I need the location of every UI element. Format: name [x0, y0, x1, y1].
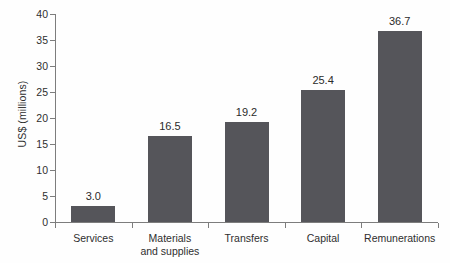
y-axis-tick-label: 20 [8, 113, 48, 124]
y-axis-tick-label: 25 [8, 87, 48, 98]
y-axis-tick [50, 144, 55, 145]
bar-value-label: 19.2 [217, 107, 277, 118]
bar-value-label: 3.0 [63, 191, 123, 202]
x-axis-line [55, 222, 438, 223]
y-axis-tick-label: 10 [8, 165, 48, 176]
y-axis-tick [50, 118, 55, 119]
x-axis-tick [208, 223, 209, 228]
x-axis-tick [55, 223, 56, 228]
x-axis-tick [132, 223, 133, 228]
y-axis-tick-label: 0 [8, 217, 48, 228]
y-axis-tick [50, 66, 55, 67]
y-axis-tick-label: 5 [8, 191, 48, 202]
x-axis-category-label: Remunerations [355, 232, 445, 245]
y-axis-tick-label: 40 [8, 9, 48, 20]
y-axis-tick-label: 35 [8, 35, 48, 46]
bar-value-label: 25.4 [293, 75, 353, 86]
bar [71, 206, 115, 222]
bar [378, 31, 422, 222]
y-axis-tick [50, 14, 55, 15]
y-axis-tick [50, 40, 55, 41]
x-axis-tick [438, 223, 439, 228]
y-axis-tick [50, 196, 55, 197]
y-axis-tick-label: 30 [8, 61, 48, 72]
y-axis-tick [50, 92, 55, 93]
y-axis-line [55, 14, 56, 223]
bar [148, 136, 192, 222]
bar-value-label: 36.7 [370, 16, 430, 27]
bar-chart: US$ (millions) 0510152025303540 3.016.51… [0, 0, 450, 263]
x-axis-tick [285, 223, 286, 228]
y-axis-tick-label: 15 [8, 139, 48, 150]
x-axis-tick [361, 223, 362, 228]
bar-value-label: 16.5 [140, 121, 200, 132]
y-axis-tick [50, 170, 55, 171]
bar [225, 122, 269, 222]
bar [301, 90, 345, 222]
